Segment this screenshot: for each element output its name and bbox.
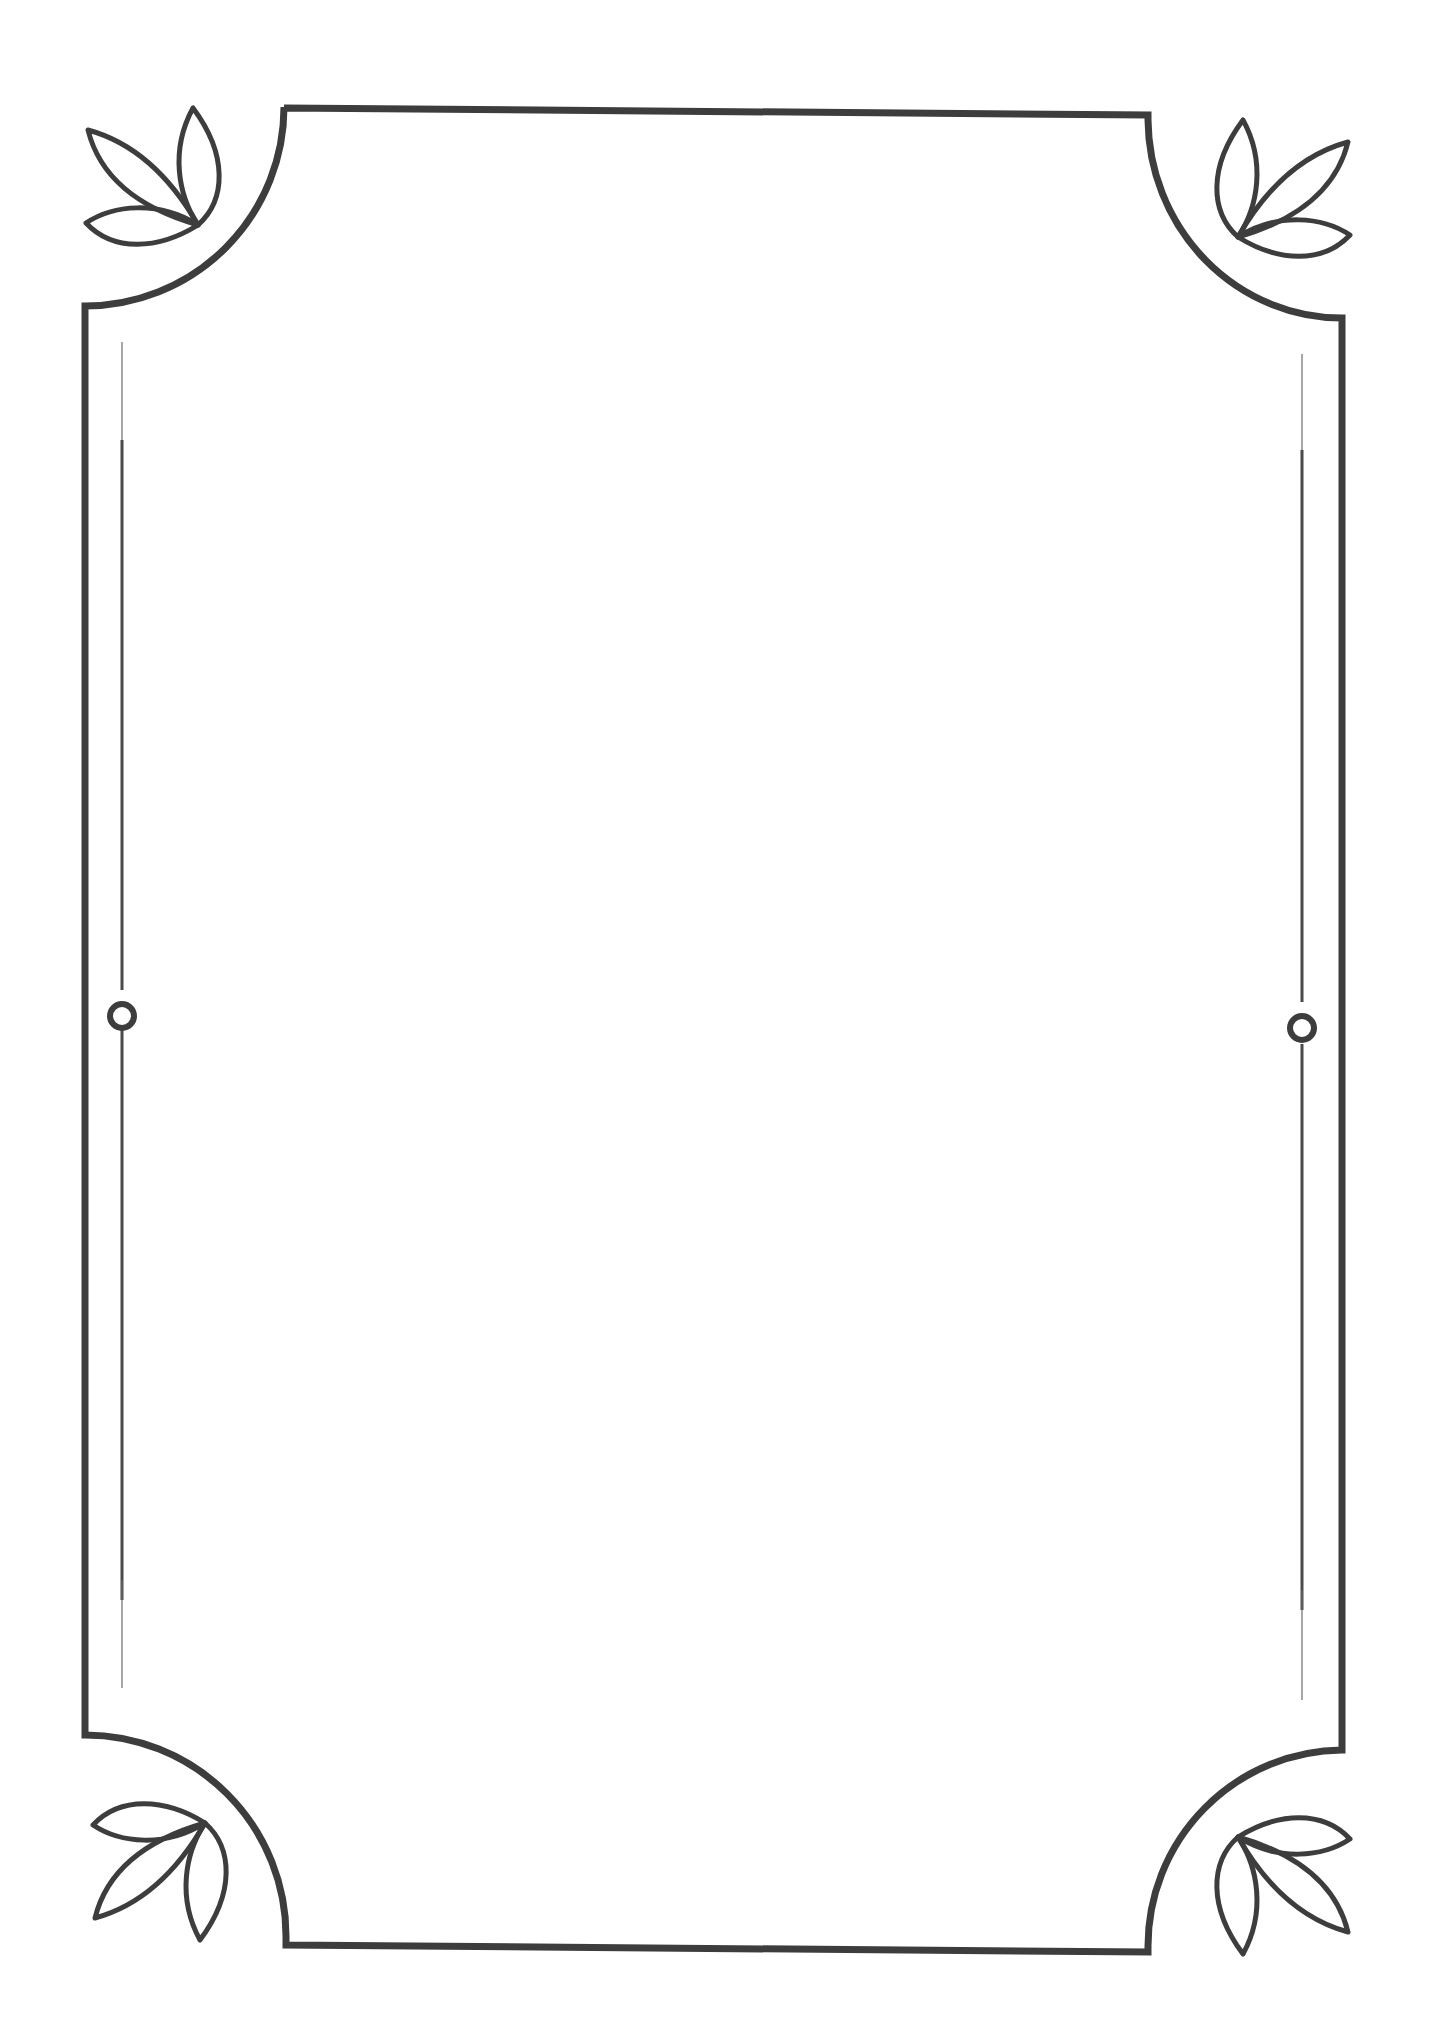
corner-leaf-bottom-left-icon bbox=[93, 1804, 226, 1940]
left-ring-icon bbox=[110, 1004, 134, 1028]
right-ring-icon bbox=[1290, 1016, 1314, 1040]
left-side-rule bbox=[110, 342, 134, 1688]
corner-leaf-bottom-right-icon bbox=[1217, 1818, 1350, 1954]
right-side-rule bbox=[1290, 354, 1314, 1700]
frame-content-area bbox=[160, 360, 1260, 1660]
page-frame bbox=[0, 0, 1454, 2028]
corner-leaf-top-right-icon bbox=[1217, 120, 1350, 256]
corner-leaf-top-left-icon bbox=[86, 108, 219, 244]
